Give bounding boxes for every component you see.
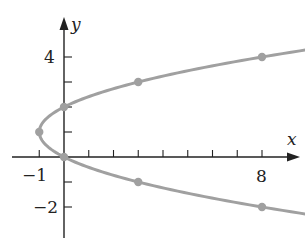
x-axis-arrow-icon: [287, 153, 300, 162]
data-point: [60, 153, 68, 161]
y-tick-label-4: 4: [44, 47, 55, 67]
data-point: [35, 128, 43, 136]
x-tick-label-8: 8: [256, 166, 267, 186]
y-tick-label-neg2: −2: [33, 197, 58, 217]
parabola-curve: [39, 50, 305, 215]
y-axis-label: y: [70, 14, 81, 34]
data-point: [258, 53, 266, 61]
data-point: [134, 178, 142, 186]
data-point: [134, 78, 142, 86]
data-point: [60, 103, 68, 111]
x-tick-label-neg1: −1: [22, 165, 47, 185]
x-axis-label: x: [287, 129, 297, 149]
data-point: [258, 203, 266, 211]
y-axis-arrow-icon: [60, 17, 69, 30]
parabola-chart: y x −1 8 4 −2: [0, 0, 305, 248]
